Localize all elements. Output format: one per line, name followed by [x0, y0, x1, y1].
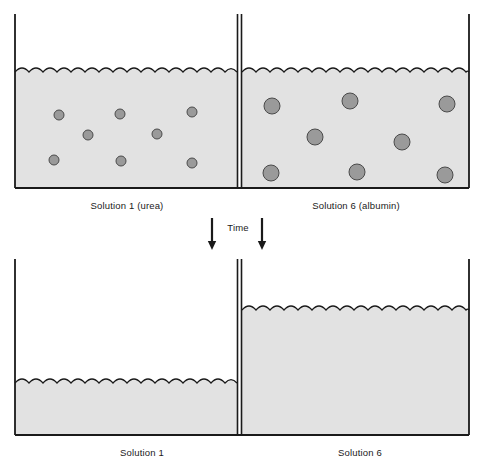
- panel-before: Solution 1 (urea) Solution 6 (albumin): [15, 14, 469, 211]
- solute-particle-urea: [49, 155, 59, 165]
- caption-top-right: Solution 6 (albumin): [312, 200, 400, 211]
- semipermeable-membrane-bottom: [238, 259, 242, 435]
- solute-particle-urea: [83, 130, 93, 140]
- solute-particle-albumin: [307, 129, 323, 145]
- time-arrow-head: [208, 241, 216, 250]
- panel-after: Solution 1 Solution 6: [15, 259, 469, 458]
- osmosis-diagram: Solution 1 (urea) Solution 6 (albumin) T…: [0, 0, 483, 463]
- time-transition: Time: [208, 218, 266, 250]
- solute-particle-urea: [54, 110, 64, 120]
- solute-particle-albumin: [349, 164, 365, 180]
- caption-bottom-left: Solution 1: [120, 447, 164, 458]
- time-label: Time: [227, 222, 248, 233]
- solute-particle-albumin: [439, 96, 455, 112]
- solute-particle-urea: [187, 158, 197, 168]
- fluid-body-bottom-left: [15, 379, 237, 435]
- time-arrow-head: [258, 241, 266, 250]
- solute-particle-urea: [116, 156, 126, 166]
- solute-particle-albumin: [264, 98, 280, 114]
- solute-particle-urea: [152, 129, 162, 139]
- diagram-canvas: Solution 1 (urea) Solution 6 (albumin) T…: [0, 0, 483, 463]
- solute-particle-albumin: [437, 167, 453, 183]
- caption-top-left: Solution 1 (urea): [91, 200, 164, 211]
- solute-particle-urea: [115, 109, 125, 119]
- fluid-body-top-left: [15, 68, 237, 188]
- semipermeable-membrane-top: [238, 14, 242, 188]
- solute-particle-albumin: [394, 134, 410, 150]
- caption-bottom-right: Solution 6: [338, 447, 382, 458]
- solute-particle-albumin: [263, 165, 279, 181]
- solute-particle-albumin: [342, 93, 358, 109]
- solute-particle-urea: [187, 107, 197, 117]
- fluid-body-bottom-right: [242, 306, 469, 435]
